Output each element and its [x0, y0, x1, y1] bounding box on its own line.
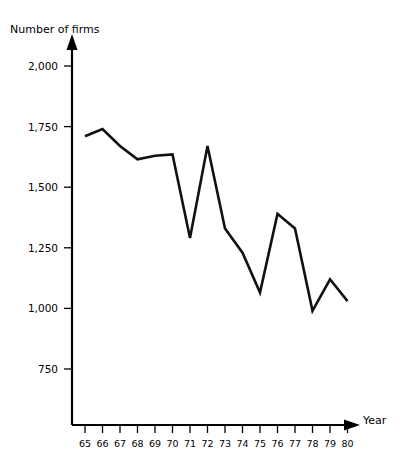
data-series-line [85, 129, 348, 311]
x-tick-label: 67 [114, 438, 126, 449]
x-axis-ticks [85, 425, 348, 433]
x-tick-label: 80 [341, 438, 353, 449]
y-tick-label: 1,000 [28, 302, 58, 314]
x-tick-label: 76 [271, 438, 283, 449]
x-tick-label: 70 [166, 438, 178, 449]
y-axis-arrow-icon [67, 34, 78, 50]
chart-container: Number of firms Year 2,000 1,750 1,500 1… [0, 0, 403, 465]
x-tick-label: 69 [149, 438, 161, 449]
y-tick-label: 2,000 [28, 60, 58, 72]
x-axis-tick-labels: 65666768697071727374757677787980 [79, 438, 354, 449]
y-tick-label: 750 [38, 363, 58, 375]
y-tick-label: 1,500 [28, 181, 58, 193]
x-tick-label: 74 [236, 438, 248, 449]
y-axis-title: Number of firms [10, 23, 100, 36]
x-tick-label: 75 [254, 438, 266, 449]
line-chart: Number of firms Year 2,000 1,750 1,500 1… [0, 0, 403, 465]
y-tick-label: 1,750 [28, 121, 58, 133]
x-tick-label: 77 [289, 438, 301, 449]
x-axis-arrow-icon [344, 420, 360, 431]
x-axis-title: Year [362, 414, 387, 427]
y-tick-label: 1,250 [28, 242, 58, 254]
x-tick-label: 68 [131, 438, 143, 449]
x-tick-label: 73 [219, 438, 231, 449]
x-tick-label: 66 [96, 438, 108, 449]
x-tick-label: 72 [201, 438, 213, 449]
y-axis-ticks: 2,000 1,750 1,500 1,250 1,000 750 [28, 60, 72, 375]
x-tick-label: 79 [324, 438, 336, 449]
x-tick-label: 71 [184, 438, 196, 449]
x-tick-label: 78 [306, 438, 318, 449]
x-tick-label: 65 [79, 438, 91, 449]
